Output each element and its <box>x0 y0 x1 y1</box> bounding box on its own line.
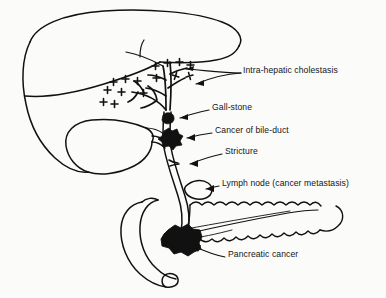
gallbladder <box>66 119 153 174</box>
label-arrowheads <box>180 66 214 252</box>
plus-mark <box>104 87 111 94</box>
arrowhead-cancer-of-bile-duct <box>187 134 195 141</box>
liver <box>23 10 241 172</box>
anatomy-figure <box>0 0 386 298</box>
plus-mark <box>134 78 141 85</box>
bile-duct-cancer-mass <box>158 128 183 150</box>
label-stricture: Stricture <box>225 147 258 156</box>
label-pancreatic-cancer: Pancreatic cancer <box>228 250 298 259</box>
pancreatic-cancer-mass <box>161 224 202 256</box>
diagram-canvas: Intra-hepatic cholestasis Gall-stone Can… <box>0 0 386 298</box>
plus-mark <box>185 72 194 81</box>
cholestasis-marks <box>100 59 194 108</box>
plus-mark <box>111 101 118 108</box>
label-gall-stone: Gall-stone <box>212 103 252 112</box>
gallstone-mass <box>162 113 174 124</box>
plus-mark <box>118 89 125 96</box>
pointer-intra-hepatic-cholestasis <box>186 69 241 73</box>
label-lymph-node-cancer-metastasis: Lymph node (cancer metastasis) <box>222 179 349 188</box>
arrowhead-lymph-node <box>206 185 214 192</box>
plus-mark <box>100 99 107 106</box>
label-cancer-of-bile-duct: Cancer of bile-duct <box>215 126 289 135</box>
lymph-node <box>185 181 212 200</box>
label-intra-hepatic-cholestasis: Intra-hepatic cholestasis <box>243 66 338 75</box>
arrowhead-stricture <box>190 160 198 167</box>
plus-mark <box>176 59 183 66</box>
